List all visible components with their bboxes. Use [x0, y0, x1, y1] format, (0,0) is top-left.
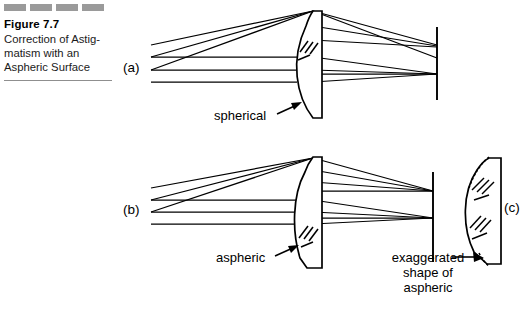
spherical-label: spherical	[214, 108, 266, 123]
panel-c: (c) exaggerated shape of aspheric	[392, 157, 520, 295]
panel-b-refracted-axial	[313, 200, 433, 224]
figure-page: Figure 7.7 Correction of Astig- matism w…	[0, 0, 529, 312]
exaggerated-callout-line: aspheric	[403, 280, 453, 295]
panel-b-axial-rays	[151, 200, 303, 224]
exaggerated-lens-element	[465, 158, 501, 264]
aspheric-label: aspheric	[216, 250, 266, 265]
panel-a-oblique-rays	[151, 11, 313, 70]
lens-element-spherical	[297, 11, 322, 118]
panel-a: (a) spherical	[123, 11, 437, 123]
panel-label-a: (a)	[123, 60, 140, 75]
panel-a-refracted-axial	[313, 57, 437, 82]
spherical-arrow-icon	[291, 102, 302, 110]
panel-a-axial-rays	[151, 57, 301, 82]
lens-element-aspheric	[295, 157, 322, 268]
panel-label-c: (c)	[504, 200, 520, 215]
panel-a-refracted-oblique	[313, 11, 437, 58]
panel-b-oblique-rays	[151, 158, 313, 212]
panel-b: (b) aspheric	[123, 157, 433, 268]
exaggerated-callout-line: shape of	[403, 265, 453, 280]
panel-b-refracted-oblique	[313, 158, 433, 191]
panel-label-b: (b)	[123, 202, 140, 217]
optical-diagram: (a) spherical	[0, 0, 529, 312]
